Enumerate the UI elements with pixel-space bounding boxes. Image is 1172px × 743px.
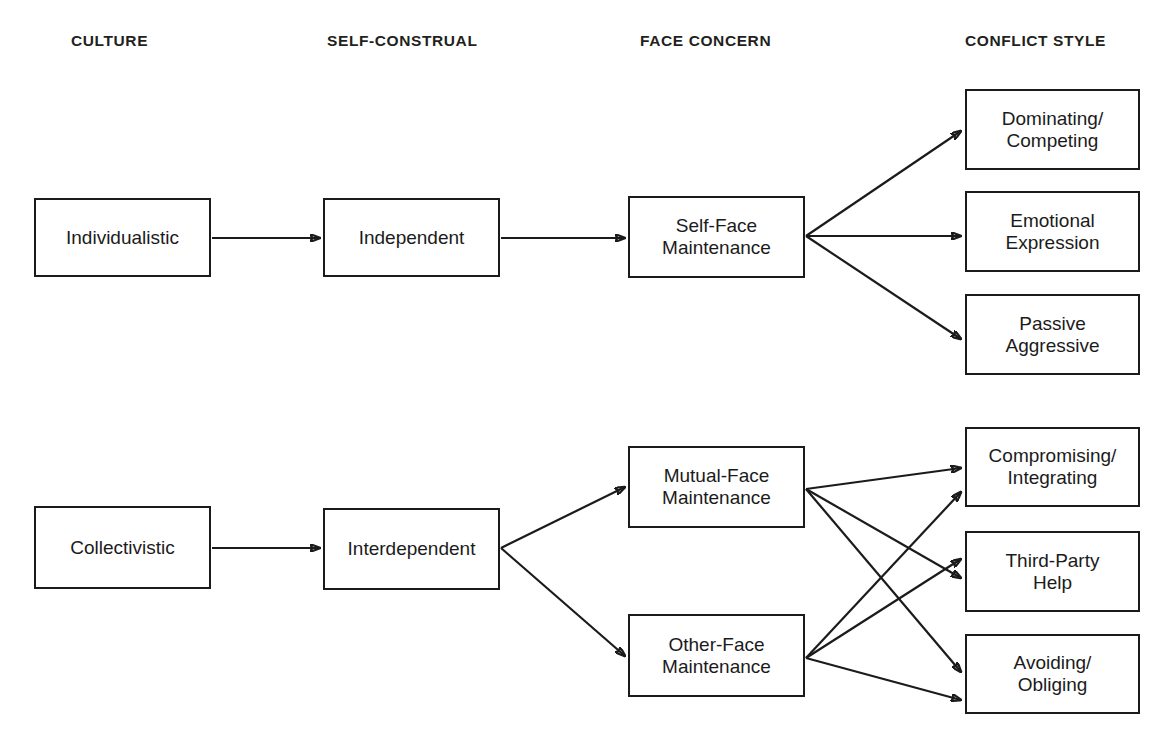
- node-individualistic[interactable]: Individualistic: [34, 198, 211, 277]
- node-third-party-help[interactable]: Third-Party Help: [965, 531, 1140, 612]
- node-compromising-integrating[interactable]: Compromising/ Integrating: [965, 427, 1140, 507]
- edge-mutual-face-to-third-party: [806, 489, 961, 578]
- node-passive-aggressive[interactable]: Passive Aggressive: [965, 294, 1140, 375]
- edge-self-face-to-dominating: [806, 131, 961, 236]
- node-avoiding-obliging[interactable]: Avoiding/ Obliging: [965, 634, 1140, 714]
- flow-diagram: CULTURE SELF-CONSTRUAL FACE CONCERN CONF…: [0, 0, 1172, 743]
- edge-other-face-to-avoiding: [806, 658, 961, 700]
- node-interdependent[interactable]: Interdependent: [323, 508, 500, 590]
- edge-interdependent-to-other-face: [501, 548, 625, 656]
- edge-mutual-face-to-compromising: [806, 468, 961, 489]
- edge-self-face-to-passive: [806, 236, 961, 339]
- column-header-self-construal: SELF-CONSTRUAL: [327, 33, 477, 49]
- node-independent[interactable]: Independent: [323, 198, 500, 277]
- edge-mutual-face-to-avoiding: [806, 489, 961, 672]
- node-mutual-face-maintenance[interactable]: Mutual-Face Maintenance: [628, 446, 805, 528]
- column-header-face-concern: FACE CONCERN: [640, 33, 771, 49]
- node-collectivistic[interactable]: Collectivistic: [34, 506, 211, 589]
- node-emotional-expression[interactable]: Emotional Expression: [965, 191, 1140, 272]
- edge-other-face-to-compromising: [806, 492, 961, 658]
- column-header-conflict-style: CONFLICT STYLE: [965, 33, 1106, 49]
- column-header-culture: CULTURE: [71, 33, 148, 49]
- node-self-face-maintenance[interactable]: Self-Face Maintenance: [628, 196, 805, 278]
- node-other-face-maintenance[interactable]: Other-Face Maintenance: [628, 614, 805, 697]
- edge-interdependent-to-mutual-face: [501, 487, 625, 548]
- node-dominating-competing[interactable]: Dominating/ Competing: [965, 89, 1140, 170]
- edge-other-face-to-third-party: [806, 559, 961, 658]
